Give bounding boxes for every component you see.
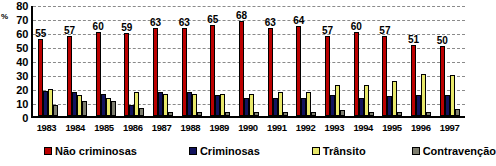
legend-label: Contravenção xyxy=(423,146,496,157)
legend-label: Não criminosas xyxy=(55,146,137,157)
x-axis-tick: 1992 xyxy=(291,120,320,136)
y-axis-tick: 70 xyxy=(16,15,28,26)
bar-value-label: 50 xyxy=(437,36,448,46)
y-axis-tick: 50 xyxy=(16,43,28,54)
x-axis-tick: 1991 xyxy=(262,120,291,136)
legend-item[interactable]: Criminosas xyxy=(189,146,260,157)
bar-3[interactable] xyxy=(426,112,431,116)
y-axis-tick: 40 xyxy=(16,57,28,68)
bar-2[interactable] xyxy=(392,81,397,116)
legend-item[interactable]: Contravenção xyxy=(412,146,496,157)
bar-value-label: 64 xyxy=(293,16,304,26)
y-axis-tick: 80 xyxy=(16,1,28,12)
bar-group: 55 xyxy=(34,6,63,116)
bar-group: 63 xyxy=(149,6,178,116)
bar-value-label: 63 xyxy=(150,18,161,28)
bar-group: 60 xyxy=(349,6,378,116)
bar-3[interactable] xyxy=(397,112,402,116)
bar-3[interactable] xyxy=(455,109,460,116)
bar-group: 59 xyxy=(120,6,149,116)
y-axis-tick: 60 xyxy=(16,29,28,40)
x-axis-tick: 1993 xyxy=(320,120,349,136)
bar-value-label: 59 xyxy=(121,23,132,33)
bar-groups: 555760596363656863645760575150 xyxy=(33,6,465,116)
bar-group: 63 xyxy=(263,6,292,116)
bar-3[interactable] xyxy=(369,112,374,116)
bar-0[interactable]: 59 xyxy=(124,33,129,116)
bar-value-label: 57 xyxy=(322,26,333,36)
bar-3[interactable] xyxy=(254,112,259,116)
legend-swatch-icon xyxy=(312,147,320,155)
bar-value-label: 63 xyxy=(265,18,276,28)
bar-value-label: 57 xyxy=(64,26,75,36)
bar-value-label: 57 xyxy=(379,26,390,36)
legend-label: Criminosas xyxy=(200,146,260,157)
legend-item[interactable]: Não criminosas xyxy=(44,146,137,157)
x-axis-tick: 1990 xyxy=(234,120,263,136)
bar-3[interactable] xyxy=(340,110,345,116)
bar-group: 57 xyxy=(378,6,407,116)
y-axis: % 80706050403020100 xyxy=(0,6,30,118)
x-axis-tick: 1994 xyxy=(349,120,378,136)
bar-group: 65 xyxy=(206,6,235,116)
bar-3[interactable] xyxy=(139,108,144,116)
bar-2[interactable] xyxy=(421,74,426,116)
legend-label: Trânsito xyxy=(323,146,366,157)
x-axis-tick: 1995 xyxy=(378,120,407,136)
legend-swatch-icon xyxy=(189,147,197,155)
x-axis-tick: 1987 xyxy=(147,120,176,136)
legend-item[interactable]: Trânsito xyxy=(312,146,366,157)
x-axis-tick: 1988 xyxy=(176,120,205,136)
bar-group: 68 xyxy=(235,6,264,116)
bar-value-label: 60 xyxy=(351,22,362,32)
x-axis-tick: 1996 xyxy=(406,120,435,136)
x-axis-tick: 1985 xyxy=(90,120,119,136)
legend-swatch-icon xyxy=(412,147,420,155)
chart-legend: Não criminosasCriminosasTrânsitoContrave… xyxy=(0,141,470,161)
y-axis-tick: 10 xyxy=(16,99,28,110)
bar-value-label: 65 xyxy=(207,15,218,25)
bar-group: 60 xyxy=(91,6,120,116)
y-axis-unit-label: % xyxy=(1,13,8,21)
bar-value-label: 63 xyxy=(179,18,190,28)
bar-group: 50 xyxy=(435,6,464,116)
plot-area: 555760596363656863645760575150 xyxy=(31,6,465,118)
bar-value-label: 60 xyxy=(93,22,104,32)
bar-group: 57 xyxy=(63,6,92,116)
bar-3[interactable] xyxy=(53,105,58,116)
bar-3[interactable] xyxy=(111,101,116,116)
x-axis-tick: 1984 xyxy=(61,120,90,136)
y-axis-tick: 0 xyxy=(22,113,28,124)
x-axis-tick: 1989 xyxy=(205,120,234,136)
bar-group: 63 xyxy=(177,6,206,116)
bar-group: 51 xyxy=(407,6,436,116)
legend-swatch-icon xyxy=(44,147,52,155)
y-axis-tick: 30 xyxy=(16,71,28,82)
bar-3[interactable] xyxy=(283,112,288,116)
bar-3[interactable] xyxy=(225,112,230,116)
x-axis: 1983198419851986198719881989199019911992… xyxy=(31,120,465,136)
bar-3[interactable] xyxy=(311,112,316,116)
x-axis-tick: 1986 xyxy=(118,120,147,136)
bar-value-label: 55 xyxy=(35,29,46,39)
x-axis-tick: 1997 xyxy=(435,120,464,136)
x-axis-tick: 1983 xyxy=(32,120,61,136)
bar-3[interactable] xyxy=(82,101,87,116)
y-axis-tick: 20 xyxy=(16,85,28,96)
bar-3[interactable] xyxy=(197,112,202,116)
bar-group: 57 xyxy=(321,6,350,116)
bar-3[interactable] xyxy=(168,112,173,116)
bar-value-label: 51 xyxy=(408,35,419,45)
bar-value-label: 68 xyxy=(236,11,247,21)
bar-group: 64 xyxy=(292,6,321,116)
